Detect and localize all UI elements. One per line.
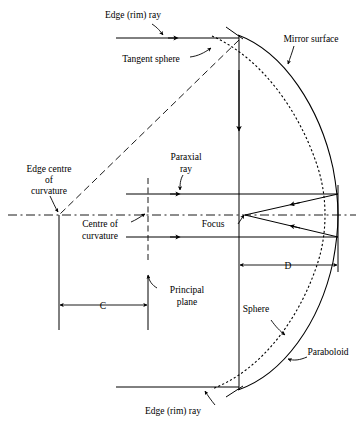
label-edge-centre-of-curvature-line1: Edge centre xyxy=(26,164,71,174)
converging-ray-upper-arrowhead xyxy=(292,203,300,205)
leader-sphere xyxy=(271,320,285,335)
label-principal-plane-line1: Principal xyxy=(170,285,205,295)
label-mirror-surface: Mirror surface xyxy=(283,34,338,44)
figure-canvas: Edge (rim) ray Tangent sphere Mirror sur… xyxy=(0,0,360,435)
label-edge-centre-of-curvature-line3: curvature xyxy=(31,186,67,196)
label-focus: Focus xyxy=(202,219,225,229)
edge-ray-reflected-line xyxy=(59,40,239,215)
label-centre-of-curvature-line2: curvature xyxy=(82,231,118,241)
leader-paraboloid xyxy=(288,357,307,360)
converging-ray-lower xyxy=(245,215,338,237)
label-edge-rim-ray-bottom: Edge (rim) ray xyxy=(145,406,201,417)
label-tangent-sphere: Tangent sphere xyxy=(122,54,180,64)
leader-mirror-surface xyxy=(288,46,294,64)
label-centre-of-curvature-line1: Centre of xyxy=(82,219,118,229)
rim-bottom-tick xyxy=(226,386,243,397)
label-paraxial-ray-line1: Paraxial xyxy=(170,152,201,162)
label-sphere: Sphere xyxy=(243,304,269,314)
leader-paraxial-ray xyxy=(180,175,183,190)
rim-top-tick xyxy=(226,27,243,39)
leader-edge-rim-ray-bottom xyxy=(205,391,215,405)
label-paraxial-ray-line2: ray xyxy=(180,164,192,174)
label-dimension-c: C xyxy=(100,301,106,311)
paraboloid-curve xyxy=(238,35,338,390)
converging-ray-lower-arrowhead xyxy=(292,226,300,228)
leader-edge-centre-of-curvature xyxy=(50,196,58,212)
converging-ray-upper xyxy=(245,194,338,215)
optical-diagram: Edge (rim) ray Tangent sphere Mirror sur… xyxy=(0,0,360,435)
label-paraboloid: Paraboloid xyxy=(307,347,348,357)
label-edge-rim-ray-top: Edge (rim) ray xyxy=(105,10,161,21)
leader-principal-plane xyxy=(148,275,157,288)
leader-edge-rim-ray-top xyxy=(152,24,163,35)
sphere-curve xyxy=(212,36,325,389)
leader-tangent-sphere xyxy=(190,48,211,57)
label-edge-centre-of-curvature-line2: of xyxy=(45,175,54,185)
label-dimension-d: D xyxy=(285,261,292,271)
label-principal-plane-line2: plane xyxy=(177,297,198,307)
